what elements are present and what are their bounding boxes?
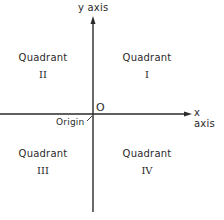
quadrant-2-numeral: II bbox=[8, 69, 78, 80]
quadrant-2: Quadrant II bbox=[8, 52, 78, 80]
quadrant-3-numeral: III bbox=[8, 165, 78, 176]
quadrant-2-word: Quadrant bbox=[8, 52, 78, 63]
x-axis-arrow-icon bbox=[184, 112, 192, 117]
quadrant-1-word: Quadrant bbox=[112, 52, 182, 63]
quadrant-3: Quadrant III bbox=[8, 148, 78, 176]
quadrant-3-word: Quadrant bbox=[8, 148, 78, 159]
axes-diagram bbox=[0, 0, 224, 220]
y-axis-label: y axis bbox=[78, 2, 108, 13]
y-axis-arrow-icon bbox=[91, 16, 96, 24]
quadrant-1: Quadrant I bbox=[112, 52, 182, 80]
origin-label: Origin bbox=[56, 117, 84, 127]
origin-pointer-line bbox=[87, 116, 92, 121]
quadrant-4: Quadrant IV bbox=[112, 148, 182, 176]
quadrant-4-numeral: IV bbox=[112, 165, 182, 176]
origin-marker: O bbox=[96, 101, 105, 114]
quadrant-4-word: Quadrant bbox=[112, 148, 182, 159]
x-axis-label: x axis bbox=[194, 107, 224, 129]
quadrant-1-numeral: I bbox=[112, 69, 182, 80]
